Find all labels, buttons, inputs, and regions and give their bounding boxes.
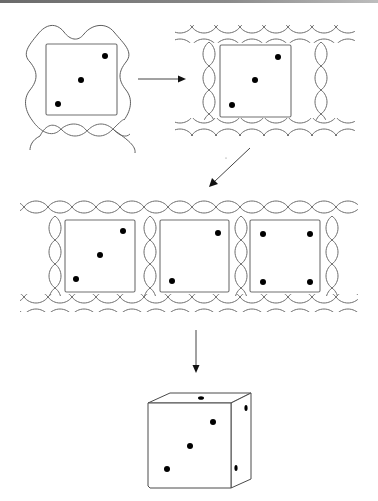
pip	[275, 54, 281, 60]
cube-right-face	[231, 393, 251, 488]
rope-top	[20, 199, 358, 217]
rope-divider	[46, 216, 64, 296]
pip	[252, 77, 258, 83]
pip	[234, 465, 237, 471]
arrow-down-icon	[193, 330, 200, 373]
rope-right	[312, 42, 330, 120]
step-4-assembled-die	[148, 393, 251, 488]
pip	[260, 279, 266, 285]
rope-bottom	[175, 118, 355, 136]
pip	[215, 230, 221, 236]
rope-divider	[323, 216, 341, 296]
process-diagram	[0, 0, 378, 501]
pip	[55, 101, 61, 107]
rope-top	[175, 25, 355, 43]
pip	[244, 405, 247, 411]
arrow-down-left-icon	[209, 148, 250, 187]
pip	[198, 396, 204, 400]
pip	[229, 102, 235, 108]
pip	[97, 252, 103, 258]
pip	[164, 466, 170, 472]
pip	[307, 231, 313, 237]
rope-bottom	[20, 294, 358, 312]
pip	[120, 228, 126, 234]
pip	[187, 443, 193, 449]
step-1-wrapped-face	[26, 25, 136, 153]
rope-left	[200, 42, 218, 120]
pip	[210, 419, 216, 425]
pip	[260, 231, 266, 237]
pip	[78, 77, 84, 83]
rope-divider	[141, 216, 159, 296]
arrow-right-icon	[138, 76, 186, 83]
pip	[73, 276, 79, 282]
rope-bottom	[32, 120, 130, 136]
pip	[102, 53, 108, 59]
step-3-rope-strip	[20, 199, 358, 312]
pip	[307, 279, 313, 285]
rope-divider	[232, 216, 250, 296]
step-2-rope-framed-face	[175, 25, 355, 136]
rope-tail-left	[30, 136, 40, 150]
pip	[169, 278, 175, 284]
